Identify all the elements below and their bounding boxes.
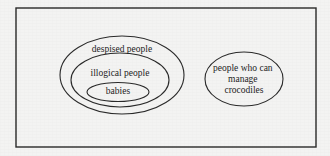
label-despised-people: despised people <box>92 44 152 54</box>
label-illogical-people: illogical people <box>91 68 150 78</box>
nested-sets-group: despised people illogical people babies <box>60 36 184 114</box>
euler-diagram-figure: despised people illogical people babies … <box>0 0 330 156</box>
ellipse-illogical-people <box>71 53 169 107</box>
label-line-3: crocodiles <box>224 85 263 95</box>
universe-box <box>16 8 316 147</box>
label-people-who-can-manage-crocodiles: people who can manage crocodiles <box>213 63 275 95</box>
label-line-2: manage <box>228 74 258 84</box>
diagram-canvas: despised people illogical people babies … <box>0 0 330 156</box>
label-babies: babies <box>106 86 131 96</box>
label-line-1: people who can <box>213 63 273 73</box>
disjoint-set-group: people who can manage crocodiles <box>205 52 283 106</box>
